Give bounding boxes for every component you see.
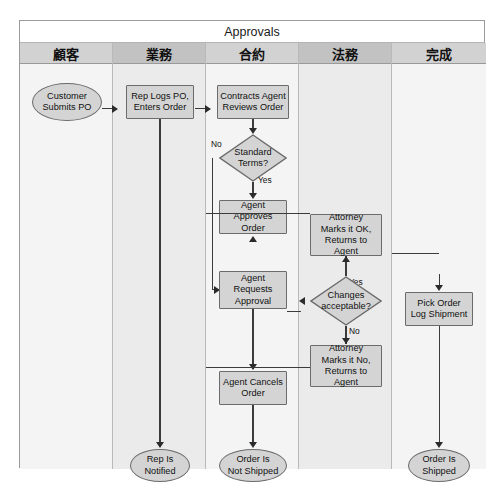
node-standard-terms-label: Standard Terms? [219, 134, 287, 182]
node-agent-cancels-order[interactable]: Agent Cancels Order [219, 371, 287, 405]
lane-label-contract: 合約 [239, 44, 265, 63]
connector-cancels-to-notshipped [252, 405, 253, 443]
node-customer-submits-po[interactable]: Customer Submits PO [32, 83, 102, 121]
lane-header-legal: 法務 [299, 43, 391, 64]
lane-customer[interactable]: 顧客 Customer Submits PO [20, 43, 113, 469]
pool-title: Approvals [20, 21, 484, 43]
arrowhead-order-shipped [435, 442, 443, 448]
connector-rep-to-notified [159, 119, 160, 442]
lane-header-customer: 顧客 [20, 43, 112, 64]
lane-body-sales: Rep Logs PO, Enters Order Rep Is Notifie… [113, 64, 205, 469]
connector-requests-to-cancels [252, 309, 253, 369]
connector-requests-to-changes [287, 311, 301, 312]
lane-sales[interactable]: 業務 Rep Logs PO, Enters Order Rep Is Noti… [113, 43, 206, 469]
node-order-is-shipped[interactable]: Order Is Shipped [408, 449, 470, 482]
arrowhead-customer-rep [112, 105, 118, 113]
lane-body-customer: Customer Submits PO [20, 64, 112, 469]
node-attorney-marks-no[interactable]: Attorney Marks it No, Returns to Agent [310, 345, 382, 387]
arrowhead-changes-yes [342, 256, 350, 262]
connector-attorney-ok-drop [309, 213, 310, 214]
lane-label-customer: 顧客 [53, 44, 79, 63]
connector-pick-to-shipped [439, 326, 440, 443]
lane-body-complete: Pick Order Log Shipment Order Is Shipped [392, 64, 486, 469]
node-agent-approves-order[interactable]: Agent Approves Order [219, 200, 287, 234]
lane-label-complete: 完成 [426, 44, 452, 63]
branch-label-standard-no: No [211, 139, 222, 149]
arrowhead-standard-yes [249, 193, 257, 199]
lane-complete[interactable]: 完成 Pick Order Log Shipment Order Is Ship… [392, 43, 486, 469]
node-pick-order-log-shipment[interactable]: Pick Order Log Shipment [405, 292, 473, 326]
connector-attorney-ok-return [206, 213, 310, 214]
lane-label-sales: 業務 [146, 44, 172, 63]
node-contracts-agent-reviews[interactable]: Contracts Agent Reviews Order [217, 85, 289, 119]
connector-attorney-no-return [206, 367, 310, 368]
arrowhead-rep-notified [156, 442, 164, 448]
node-changes-acceptable-label: Changes acceptable? [310, 276, 382, 326]
branch-label-changes-no: No [349, 326, 360, 336]
lane-body-legal: Attorney Marks it OK, Returns to Agent Y… [299, 64, 391, 469]
connector-ok-to-pick [392, 253, 439, 254]
node-order-is-not-shipped[interactable]: Order Is Not Shipped [219, 449, 287, 482]
arrowhead-into-changes-diamond [299, 297, 305, 305]
node-rep-logs-po[interactable]: Rep Logs PO, Enters Order [126, 85, 194, 119]
node-attorney-marks-ok[interactable]: Attorney Marks it OK, Returns to Agent [310, 214, 382, 256]
node-rep-is-notified[interactable]: Rep Is Notified [130, 449, 190, 482]
flowchart-canvas: Approvals 顧客 Customer Submits PO 業務 Rep … [0, 0, 503, 486]
arrowhead-pick-order [435, 285, 443, 291]
connector-standard-no-vert [212, 158, 213, 290]
lane-header-contract: 合約 [206, 43, 298, 64]
branch-label-standard-yes: Yes [258, 175, 272, 185]
node-agent-requests-approval[interactable]: Agent Requests Approval [219, 271, 287, 309]
arrowhead-rep-contracts [205, 105, 211, 113]
node-standard-terms-decision[interactable]: Standard Terms? [219, 134, 287, 182]
arrowhead-into-agent-approves [249, 236, 257, 242]
lane-body-contract: Contracts Agent Reviews Order Standard T… [206, 64, 298, 469]
lane-legal[interactable]: 法務 Attorney Marks it OK, Returns to Agen… [299, 43, 392, 469]
pool-frame: Approvals 顧客 Customer Submits PO 業務 Rep … [19, 20, 485, 468]
lane-header-complete: 完成 [392, 43, 486, 64]
lane-header-sales: 業務 [113, 43, 205, 64]
arrowhead-cancels-notshipped [249, 442, 257, 448]
node-changes-acceptable-decision[interactable]: Changes acceptable? [310, 276, 382, 326]
lane-contract[interactable]: 合約 Contracts Agent Reviews Order Standar… [206, 43, 299, 469]
lane-container: 顧客 Customer Submits PO 業務 Rep Logs PO, E… [20, 43, 484, 469]
lane-label-legal: 法務 [332, 44, 358, 63]
